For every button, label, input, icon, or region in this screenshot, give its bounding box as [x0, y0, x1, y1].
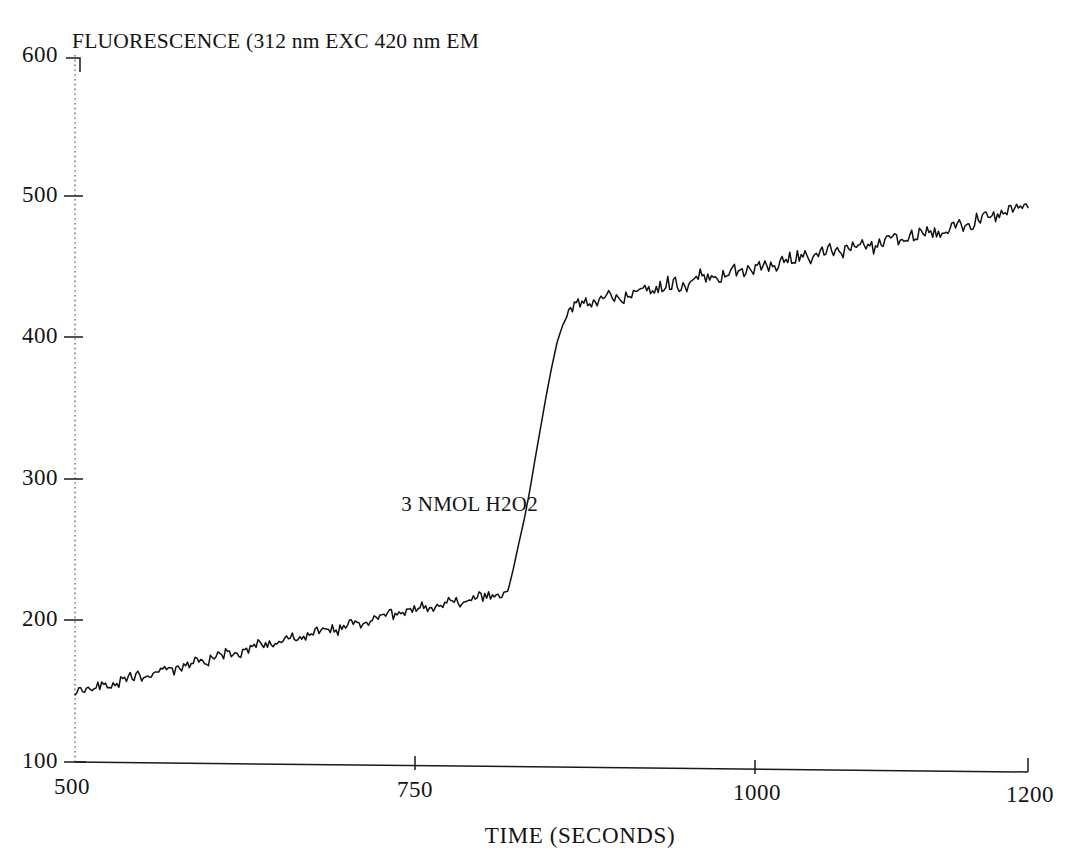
chart-title: FLUORESCENCE (312 nm EXC 420 nm EM: [72, 29, 479, 53]
x-tick-label-1200: 1200: [1006, 782, 1054, 807]
x-tick-label-750: 750: [397, 777, 433, 802]
y-tick-label-600: 600: [22, 42, 58, 67]
x-axis-line: [75, 762, 1028, 772]
y-tick-label-300: 300: [22, 465, 58, 490]
fluorescence-trace: [75, 204, 1028, 695]
y-tick-label-500: 500: [22, 182, 58, 207]
fluorescence-chart: FLUORESCENCE (312 nm EXC 420 nm EM 600 5…: [0, 0, 1068, 864]
y-axis-top-cap: [66, 58, 80, 72]
x-axis-title: TIME (SECONDS): [485, 823, 675, 848]
x-tick-label-500: 500: [54, 774, 90, 799]
y-axis-tick-labels: 600 500 400 300 200 100: [22, 42, 58, 773]
x-axis-ticks: [415, 756, 755, 774]
y-tick-label-200: 200: [22, 606, 58, 631]
chart-page: FLUORESCENCE (312 nm EXC 420 nm EM 600 5…: [0, 0, 1068, 864]
x-tick-label-1000: 1000: [733, 780, 781, 805]
y-tick-label-100: 100: [22, 748, 58, 773]
injection-annotation: 3 NMOL H2O2: [401, 492, 538, 516]
x-axis-tick-labels: 500 750 1000 1200: [54, 774, 1054, 807]
y-tick-label-400: 400: [22, 323, 58, 348]
